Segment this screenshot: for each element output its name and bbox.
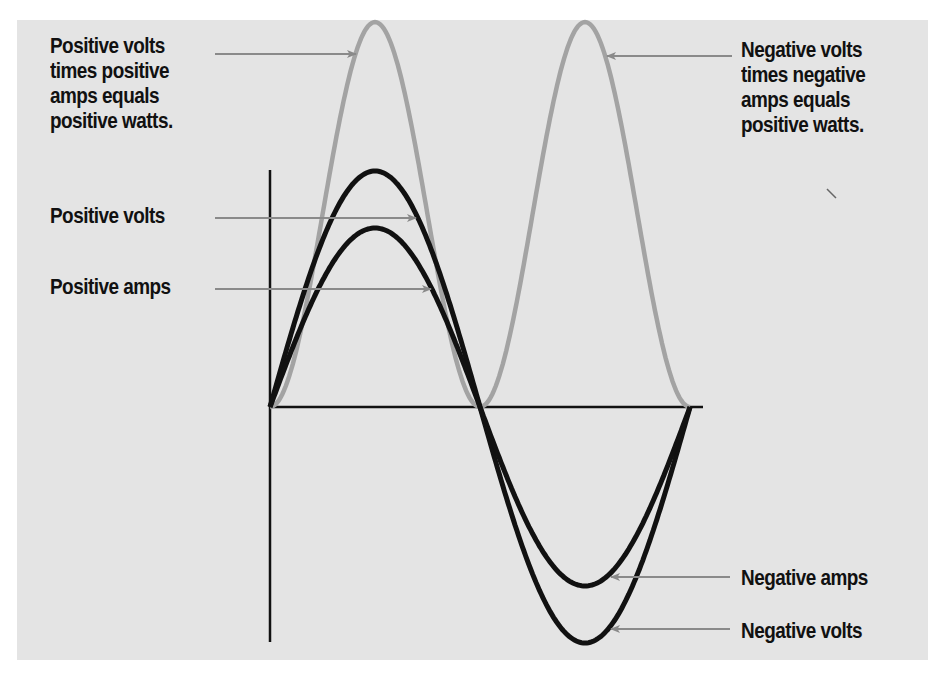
label-line: Negative volts [741,37,865,62]
label-positive-amps: Positive amps [50,274,171,299]
label-line: amps equals [50,83,173,108]
label-negative-watts: Negative volts times negative amps equal… [741,37,865,137]
label-line: Negative volts [741,618,862,643]
label-negative-volts: Negative volts [741,618,862,643]
label-line: amps equals [741,87,865,112]
label-line: times negative [741,62,865,87]
label-line: positive watts. [50,108,173,133]
label-negative-amps: Negative amps [741,565,868,590]
label-line: Positive volts [50,203,165,228]
label-line: Positive amps [50,274,171,299]
label-line: positive watts. [741,112,865,137]
label-line: times positive [50,58,173,83]
label-line: Negative amps [741,565,868,590]
stray-mark [827,189,836,198]
label-positive-volts: Positive volts [50,203,165,228]
label-positive-watts: Positive volts times positive amps equal… [50,33,173,133]
label-line: Positive volts [50,33,173,58]
